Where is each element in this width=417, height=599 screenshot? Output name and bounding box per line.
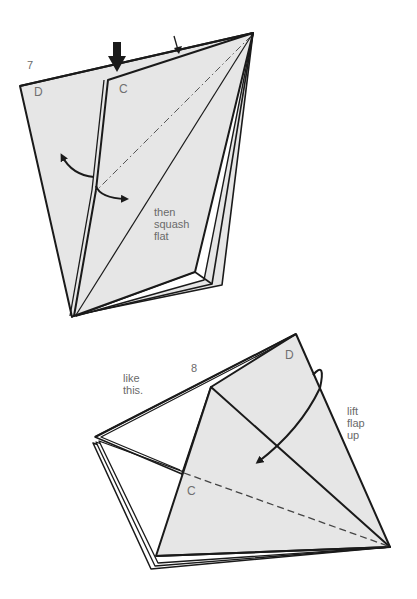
caption-like-this: like this.: [123, 372, 143, 396]
flap-label-d-step8: D: [285, 349, 294, 361]
instruction-lift-flap: lift flap up: [347, 405, 365, 441]
flap-label-d: D: [34, 86, 43, 98]
flap-label-c: C: [119, 83, 128, 95]
origami-diagram-page: 7 D C then squash flat 8 like this. D C …: [0, 0, 417, 599]
step-number-7: 7: [27, 59, 33, 71]
step-number-8: 8: [191, 362, 197, 374]
instruction-squash: then squash flat: [154, 206, 189, 242]
flap-label-c-step8: C: [187, 485, 196, 497]
diagram-canvas: [0, 0, 417, 599]
step8-figure: [93, 334, 390, 569]
step7-figure: [20, 33, 253, 317]
